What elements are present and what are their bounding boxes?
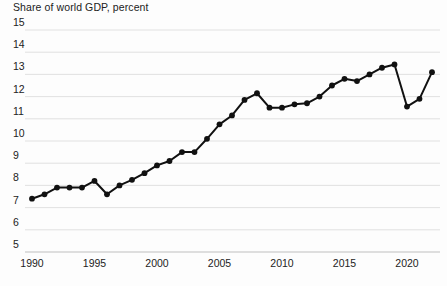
y-axis-tick-label: 10 — [13, 128, 25, 139]
y-axis-tick-label: 5 — [13, 239, 19, 250]
y-axis-tick-label: 12 — [13, 84, 25, 95]
data-point — [367, 72, 373, 78]
data-point — [92, 178, 98, 184]
data-point — [404, 104, 410, 110]
data-point — [104, 191, 110, 197]
data-point — [129, 177, 135, 183]
data-point — [167, 158, 173, 164]
data-point — [392, 62, 398, 68]
data-point — [267, 105, 273, 111]
y-axis-tick-label: 9 — [13, 150, 19, 161]
data-point — [317, 94, 323, 100]
chart-canvas — [0, 0, 447, 286]
data-point — [142, 170, 148, 176]
y-axis-tick-label: 14 — [13, 39, 25, 50]
data-point — [342, 76, 348, 82]
y-axis-tick-label: 8 — [13, 172, 19, 183]
x-axis-tick-label: 2015 — [333, 258, 356, 269]
data-point — [179, 149, 185, 155]
data-point — [354, 78, 360, 84]
data-point — [54, 185, 60, 191]
x-axis-tick-label: 1995 — [83, 258, 106, 269]
data-point — [242, 97, 248, 103]
series-line — [32, 64, 432, 198]
data-point — [79, 185, 85, 191]
data-point — [204, 136, 210, 142]
data-point — [117, 183, 123, 189]
x-axis-tick-label: 2005 — [208, 258, 231, 269]
data-point — [254, 90, 260, 96]
data-point — [429, 69, 435, 75]
chart-figure: Share of world GDP, percent 151413121110… — [0, 0, 447, 286]
data-point — [192, 149, 198, 155]
data-point — [217, 121, 223, 127]
data-point — [154, 163, 160, 169]
y-axis-tick-label: 13 — [13, 61, 25, 72]
plot-area: 15141312111098765 1990199520002005201020… — [0, 0, 447, 286]
y-axis-tick-label: 6 — [13, 217, 19, 228]
data-point — [304, 100, 310, 106]
data-point — [292, 101, 298, 107]
y-axis-tick-label: 15 — [13, 17, 25, 28]
data-point — [42, 191, 48, 197]
data-point — [417, 96, 423, 102]
x-axis-tick-label: 2000 — [145, 258, 168, 269]
x-axis-tick-label: 2020 — [395, 258, 418, 269]
x-axis-tick-label: 1990 — [20, 258, 43, 269]
x-axis-tick-label: 2010 — [270, 258, 293, 269]
y-axis-tick-label: 11 — [13, 106, 24, 117]
data-point — [279, 105, 285, 111]
y-axis-tick-label: 7 — [13, 195, 19, 206]
data-point — [329, 83, 335, 89]
data-point — [67, 185, 73, 191]
data-point — [229, 113, 235, 119]
data-point — [379, 65, 385, 71]
data-point — [29, 196, 35, 202]
